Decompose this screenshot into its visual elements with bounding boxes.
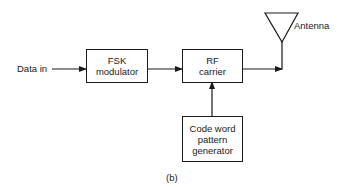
code-generator-line-3: generator (192, 145, 233, 156)
rf-carrier-line-1: RF (206, 55, 219, 66)
code-generator-line-1: Code word (190, 123, 236, 134)
fsk-modulator-line-2: modulator (96, 66, 138, 77)
fsk-modulator-block: FSK modulator (86, 49, 148, 83)
data-in-label: Data in (17, 63, 47, 74)
code-generator-line-2: pattern (198, 134, 228, 145)
antenna-label: Antenna (294, 20, 329, 31)
figure-caption: (b) (166, 172, 178, 183)
fsk-modulator-line-1: FSK (108, 55, 126, 66)
rf-carrier-block: RF carrier (182, 49, 243, 83)
rf-carrier-line-2: carrier (199, 66, 226, 77)
diagram-wires (0, 0, 344, 187)
code-word-generator-block: Code word pattern generator (182, 116, 243, 162)
